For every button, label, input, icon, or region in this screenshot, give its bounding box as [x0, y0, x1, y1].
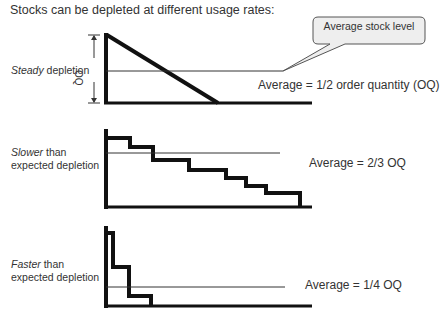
label-line2: expected depletion [11, 159, 99, 171]
chart-faster-label: Faster than expected depletion [11, 258, 99, 284]
chart-slower-average: Average = 2/3 OQ [309, 156, 406, 170]
label-emphasis: Slower [11, 146, 43, 158]
chart-steady-average: Average = 1/2 order quantity (OQ) [258, 78, 440, 92]
label-emphasis: Faster [11, 258, 41, 270]
chart-faster [104, 226, 312, 308]
label-rest: than [43, 146, 66, 158]
label-rest: depletion [44, 64, 90, 76]
chart-faster-average: Average = 1/4 OQ [305, 278, 402, 292]
callout-text: Average stock level [313, 20, 425, 32]
label-line2: expected depletion [11, 271, 99, 283]
label-rest: than [41, 258, 64, 270]
chart-steady-label: Steady depletion [11, 64, 89, 77]
label-emphasis: Steady [11, 64, 44, 76]
chart-slower [104, 129, 312, 209]
chart-steady [88, 33, 312, 104]
chart-slower-label: Slower than expected depletion [11, 146, 99, 172]
